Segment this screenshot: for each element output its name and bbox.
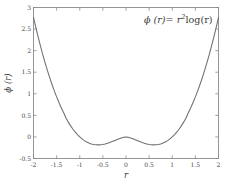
y-tick-label: 2.5 [21,25,31,32]
x-tick-label: 2 [217,161,221,168]
plot-background [0,0,228,185]
y-tick-label: 1.5 [21,68,31,75]
y-axis-label: ϕ (r) [3,73,13,92]
plot-svg: -2-1.5-1-0.500.511.52 -0.500.511.522.53 … [0,0,228,185]
y-tick-label: -0.5 [19,155,31,162]
x-tick-label: 0.5 [144,161,154,168]
y-tick-label: 1 [27,90,31,97]
formula-annotation: ϕ (r)= r2log(r) [144,13,213,24]
x-tick-label: -1.5 [51,161,63,168]
y-tick-label: 0 [27,133,31,140]
x-tick-label: 1 [170,161,174,168]
x-axis-tick-labels: -2-1.5-1-0.500.511.52 [31,161,221,168]
y-tick-label: 0.5 [21,112,31,119]
chart-figure: -2-1.5-1-0.500.511.52 -0.500.511.522.53 … [0,0,228,185]
x-tick-label: 0 [124,161,128,168]
x-tick-label: -2 [31,161,37,168]
x-tick-label: 1.5 [191,161,201,168]
y-tick-label: 2 [27,47,31,54]
y-tick-label: 3 [27,4,31,11]
x-tick-label: -1 [77,161,83,168]
x-tick-label: -0.5 [97,161,109,168]
